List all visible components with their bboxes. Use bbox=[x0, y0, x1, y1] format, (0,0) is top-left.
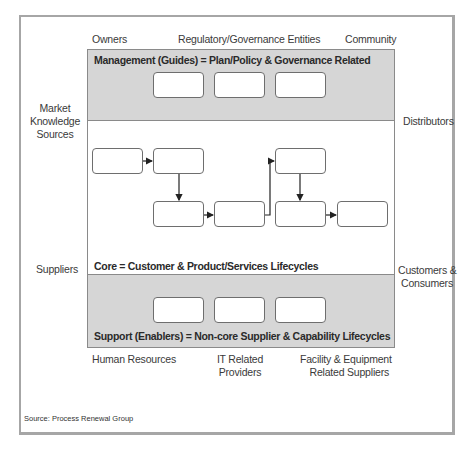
support-box-2 bbox=[214, 297, 265, 323]
stakeholder-market-knowledge: Market Knowledge Sources bbox=[28, 102, 82, 141]
support-box-1 bbox=[153, 297, 204, 323]
core-band: Core = Customer & Product/Services Lifec… bbox=[87, 121, 395, 274]
stakeholder-facility-suppliers: Facility & Equipment Related Suppliers bbox=[300, 353, 389, 379]
core-box-5 bbox=[275, 148, 326, 174]
core-box-4 bbox=[214, 201, 265, 227]
label-line: IT Related bbox=[205, 353, 275, 366]
stakeholder-distributors: Distributors bbox=[403, 115, 454, 128]
management-box-3 bbox=[275, 72, 326, 98]
core-box-3 bbox=[153, 201, 204, 227]
core-band-title: Core = Customer & Product/Services Lifec… bbox=[94, 260, 318, 272]
stakeholder-community: Community bbox=[345, 33, 396, 46]
label-line: Knowledge bbox=[28, 115, 82, 128]
core-box-1 bbox=[92, 148, 143, 174]
core-box-7 bbox=[337, 201, 388, 227]
stakeholder-human-resources: Human Resources bbox=[92, 353, 176, 366]
support-band-title: Support (Enablers) = Non-core Supplier &… bbox=[94, 330, 390, 342]
stakeholder-regulatory: Regulatory/Governance Entities bbox=[178, 33, 320, 46]
stakeholder-suppliers: Suppliers bbox=[36, 263, 78, 276]
stakeholder-owners: Owners bbox=[92, 33, 127, 46]
management-band-title: Management (Guides) = Plan/Policy & Gove… bbox=[94, 54, 370, 66]
label-line: Sources bbox=[28, 128, 82, 141]
label-line: Market bbox=[28, 102, 82, 115]
management-box-1 bbox=[153, 72, 204, 98]
management-box-2 bbox=[214, 72, 265, 98]
core-box-6 bbox=[275, 201, 326, 227]
stakeholder-it-providers: IT Related Providers bbox=[205, 353, 275, 379]
label-line: Related Suppliers bbox=[300, 366, 389, 379]
label-line: Consumers bbox=[398, 277, 456, 290]
core-box-2 bbox=[153, 148, 204, 174]
stakeholder-customers-consumers: Customers & Consumers bbox=[398, 264, 456, 290]
label-line: Facility & Equipment bbox=[300, 353, 389, 366]
label-line: Providers bbox=[205, 366, 275, 379]
label-line: Customers & bbox=[398, 264, 456, 277]
support-box-3 bbox=[275, 297, 326, 323]
source-caption: Source: Process Renewal Group bbox=[24, 414, 133, 423]
